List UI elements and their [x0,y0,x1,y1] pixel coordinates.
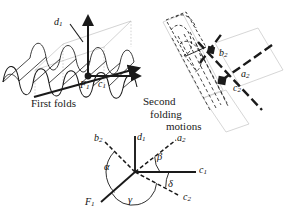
construction-plane-2a [163,14,223,98]
panel-first-folds [3,16,140,98]
angle-label-gamma: γ [128,195,132,206]
corrugation-ridges [3,57,137,88]
angle-label-beta: β [157,152,162,163]
label-b2-panel3: b2 [94,133,103,144]
label-c1-panel3: c1 [199,165,207,176]
label-d1-panel3: d1 [137,132,146,143]
label-c2-panel2: c2 [233,83,241,94]
label-a2-panel2: a2 [241,69,250,80]
panel-angle-diagram [101,136,196,205]
label-F1-panel1: F1 [80,80,90,91]
caption-folding: folding [150,109,182,120]
label-c2-panel3: c2 [183,192,191,203]
angle-label-delta: δ [168,179,173,190]
caption-second: Second [143,96,175,107]
label-F1-panel3: F1 [85,197,95,208]
ray-a2 [135,140,176,172]
angle-label-alpha: α [104,162,110,173]
corrugation-back-edge [30,43,134,74]
label-b2-panel2: b2 [219,48,228,59]
label-d1-panel1: d1 [54,17,63,28]
ray-c2 [135,172,180,196]
caption-motions: motions [166,121,201,132]
vertex-c2-marker [217,76,226,85]
vertex-b2-marker [207,46,215,54]
construction-plane-1 [35,21,131,70]
label-a2-panel3: a2 [177,133,186,144]
folding-diagram-figure [0,0,287,218]
caption-first-folds: First folds [31,98,76,109]
label-c1-panel1: c1 [98,79,106,90]
